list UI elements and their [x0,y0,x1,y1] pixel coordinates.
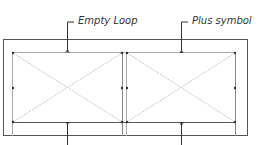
hinge-dot [121,87,123,89]
hinge-dot [234,87,236,89]
hinge-dot [121,121,123,123]
label-empty-loop: Empty Loop [78,15,138,26]
leader-line-empty-loop [68,22,75,52]
hinge-dot [234,52,236,54]
leader-line-plus-symbol [182,22,189,52]
hinge-dot [126,121,128,123]
hinge-dot [126,52,128,54]
hinge-dot [234,121,236,123]
outer-frame [4,40,248,136]
plus-symbol-icon-bottom [66,122,70,125]
hinge-dot [12,52,14,54]
hinge-dot [126,87,128,89]
hinge-dot [121,52,123,54]
label-plus-symbol: Plus symbol [192,15,252,26]
hinge-dot [12,87,14,89]
hinge-dot [12,121,14,123]
plus-symbol-icon [180,50,184,53]
